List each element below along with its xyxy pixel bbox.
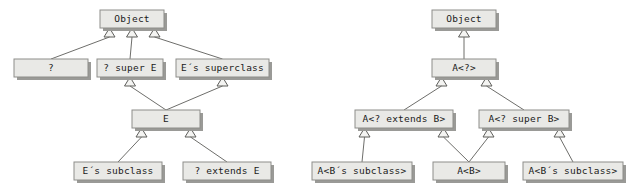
class-box-label: ? super E xyxy=(103,62,156,73)
class-box-label: ? extends E xyxy=(194,165,259,176)
class-box-label: A<B´s subclass> xyxy=(318,165,407,176)
class-box[interactable]: ? super E xyxy=(97,59,166,80)
inheritance-line xyxy=(404,86,442,110)
inheritance-line xyxy=(118,137,142,162)
class-box-label: E´s subclass xyxy=(82,165,153,176)
inheritance-edge xyxy=(404,77,447,110)
class-box-label: A<B> xyxy=(457,165,481,176)
inheritance-edge xyxy=(149,28,223,59)
inheritance-line xyxy=(166,86,223,110)
class-box[interactable]: E´s subclass xyxy=(74,162,165,183)
inheritance-edge xyxy=(118,128,147,162)
edges-layer xyxy=(51,28,573,162)
inheritance-edge xyxy=(166,77,228,110)
inheritance-edge xyxy=(51,28,115,59)
class-box-label: ? xyxy=(48,62,54,73)
inheritance-edge xyxy=(127,28,138,59)
inheritance-line xyxy=(560,137,574,162)
class-box[interactable]: E xyxy=(132,110,203,131)
class-box[interactable]: ? extends E xyxy=(183,162,274,183)
inheritance-line xyxy=(444,137,470,162)
inheritance-edge xyxy=(125,77,167,110)
class-box[interactable]: Object xyxy=(432,10,499,31)
inheritance-line xyxy=(487,86,525,110)
inheritance-edge xyxy=(359,128,370,162)
class-box[interactable]: E´s superclass xyxy=(176,59,272,80)
inheritance-edge xyxy=(438,128,469,162)
inheritance-edge xyxy=(459,28,470,59)
class-box[interactable]: A<B> xyxy=(433,162,508,183)
class-box-label: A<? super B> xyxy=(488,113,559,124)
class-box-label: Object xyxy=(446,13,482,24)
inheritance-edge xyxy=(554,128,573,162)
uml-diagram-figure: Object?? super EE´s superclassEE´s subcl… xyxy=(0,0,637,188)
inheritance-line xyxy=(469,137,489,162)
class-box[interactable]: A<B´s subclass> xyxy=(312,162,415,183)
class-box-label: Object xyxy=(114,13,150,24)
class-box[interactable]: Object xyxy=(100,10,167,31)
class-box[interactable]: A<B´s subclass> xyxy=(523,162,626,183)
inheritance-line xyxy=(155,37,223,59)
class-box-label: E´s superclass xyxy=(181,62,264,73)
class-box-label: A<B´s subclass> xyxy=(529,165,618,176)
class-box[interactable]: ? xyxy=(14,59,91,80)
inheritance-line xyxy=(191,137,228,162)
class-box-label: E xyxy=(163,113,169,124)
inheritance-line xyxy=(362,137,365,162)
class-box[interactable]: A<? super B> xyxy=(479,110,572,131)
class-box-label: A<?> xyxy=(452,62,476,73)
class-box[interactable]: A<?> xyxy=(432,59,499,80)
inheritance-line xyxy=(130,86,166,110)
inheritance-edge xyxy=(481,77,524,110)
uml-canvas: Object?? super EE´s superclassEE´s subcl… xyxy=(0,0,637,188)
class-box[interactable]: A<? extends B> xyxy=(355,110,456,131)
inheritance-edge xyxy=(469,128,494,162)
class-box-label: A<? extends B> xyxy=(363,113,446,124)
inheritance-line xyxy=(130,37,132,59)
inheritance-edge xyxy=(185,128,227,162)
inheritance-line xyxy=(51,37,110,59)
